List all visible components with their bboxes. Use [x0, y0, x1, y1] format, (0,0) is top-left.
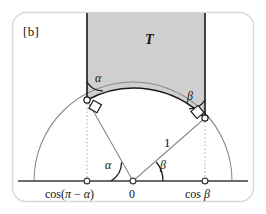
axis-label-cos-pi-minus-alpha: cos(π − α) — [45, 188, 94, 200]
geometry-diagram — [0, 0, 266, 214]
axis-label-cos-prefix: cos — [185, 187, 204, 201]
angle-label-beta-center: β — [160, 159, 166, 171]
axis-label-origin: 0 — [129, 188, 135, 200]
axis-label-cos-beta: cos β — [185, 188, 210, 200]
region-label-T: T — [145, 33, 154, 47]
angle-label-alpha-top: α — [95, 72, 101, 84]
panel-label: [b] — [23, 25, 39, 38]
point-marker-cos-pi-minus-alpha — [84, 178, 90, 184]
axis-label-minus: − — [71, 187, 84, 201]
point-marker-origin — [130, 178, 136, 184]
figure-panel-b: [b] T α β 1 α β cos(π − α) 0 cos β — [0, 0, 266, 214]
point-marker-right-tangent — [202, 115, 208, 121]
point-marker-left-tangent — [84, 97, 90, 103]
axis-label-beta: β — [204, 187, 210, 201]
radius-label-one: 1 — [164, 136, 171, 149]
axis-label-suffix: ) — [90, 187, 94, 201]
angle-label-beta-top: β — [187, 90, 193, 102]
axis-label-prefix: cos( — [45, 187, 65, 201]
point-marker-cos-beta — [202, 178, 208, 184]
angle-label-alpha-center: α — [105, 159, 111, 171]
